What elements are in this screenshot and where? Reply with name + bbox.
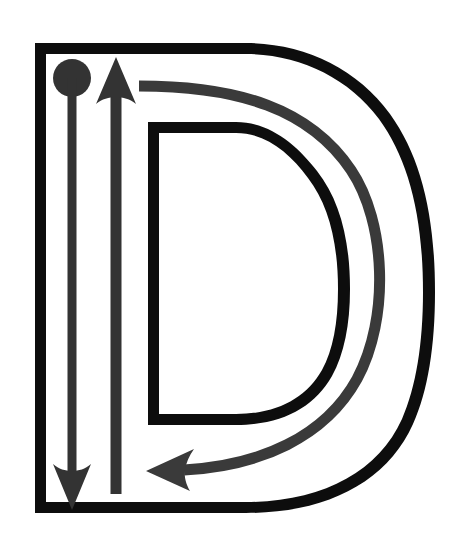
- stroke-2-shaft: [111, 96, 122, 494]
- stroke-1-shaft: [68, 78, 77, 474]
- diagram-canvas: Uppercase letter D stroke order diagram:…: [0, 0, 467, 540]
- letter-d-stroke-order-diagram: [0, 0, 467, 540]
